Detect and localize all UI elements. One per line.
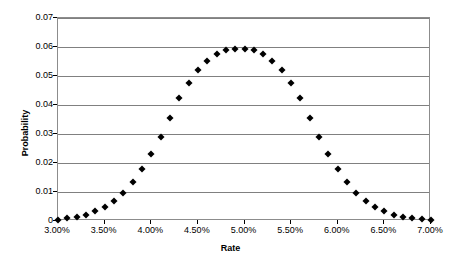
data-point: [148, 151, 155, 158]
y-tick-label: 0.03: [5, 129, 53, 138]
data-point: [82, 211, 89, 218]
data-point: [54, 216, 61, 223]
data-point: [204, 57, 211, 64]
data-point: [427, 216, 434, 223]
x-tick-mark: [430, 220, 431, 224]
data-point: [353, 189, 360, 196]
y-tick-label: 0.02: [5, 158, 53, 167]
y-tick-label: 0.06: [5, 42, 53, 51]
x-tick-label: 4.50%: [184, 226, 210, 235]
data-point: [381, 208, 388, 215]
x-tick-label: 6.00%: [324, 226, 350, 235]
plot-area: [57, 17, 430, 220]
gridline: [58, 105, 429, 106]
data-point: [194, 67, 201, 74]
x-tick-label: 7.00%: [417, 226, 443, 235]
data-point: [101, 203, 108, 210]
x-axis-tick-labels: 3.00%3.50%4.00%4.50%5.00%5.50%6.00%6.50%…: [0, 224, 461, 240]
data-point: [110, 197, 117, 204]
data-point: [334, 166, 341, 173]
x-tick-label: 3.00%: [44, 226, 70, 235]
x-tick-mark: [104, 220, 105, 224]
data-point: [278, 67, 285, 74]
x-tick-mark: [337, 220, 338, 224]
x-tick-label: 5.00%: [231, 226, 257, 235]
x-tick-mark: [244, 220, 245, 224]
y-tick-label: 0.05: [5, 71, 53, 80]
data-point: [213, 50, 220, 57]
data-point: [269, 57, 276, 64]
x-axis-title: Rate: [0, 243, 461, 253]
x-tick-mark: [290, 220, 291, 224]
gridline: [58, 76, 429, 77]
data-point: [138, 166, 145, 173]
probability-rate-scatter-chart: Probability 00.010.020.030.040.050.060.0…: [0, 0, 461, 265]
data-point: [418, 216, 425, 223]
x-tick-mark: [383, 220, 384, 224]
x-tick-label: 3.50%: [91, 226, 117, 235]
data-point: [129, 179, 136, 186]
data-point: [399, 213, 406, 220]
data-point: [288, 79, 295, 86]
y-tick-label: 0.07: [5, 13, 53, 22]
data-point: [390, 211, 397, 218]
data-point: [372, 203, 379, 210]
gridline: [58, 192, 429, 193]
data-point: [120, 189, 127, 196]
data-point: [92, 208, 99, 215]
data-point: [166, 115, 173, 122]
x-tick-label: 4.00%: [137, 226, 163, 235]
data-point: [176, 95, 183, 102]
data-point: [306, 115, 313, 122]
data-point: [73, 213, 80, 220]
y-tick-label: 0.04: [5, 100, 53, 109]
x-tick-label: 6.50%: [371, 226, 397, 235]
gridline: [58, 134, 429, 135]
gridline: [58, 18, 429, 19]
data-point: [409, 215, 416, 222]
y-tick-label: 0.01: [5, 187, 53, 196]
data-point: [64, 215, 71, 222]
gridline: [58, 163, 429, 164]
data-point: [260, 50, 267, 57]
x-tick-mark: [197, 220, 198, 224]
data-point: [325, 151, 332, 158]
data-point: [344, 179, 351, 186]
data-point: [185, 79, 192, 86]
x-tick-label: 5.50%: [277, 226, 303, 235]
data-point: [297, 95, 304, 102]
data-point: [362, 197, 369, 204]
x-tick-mark: [150, 220, 151, 224]
